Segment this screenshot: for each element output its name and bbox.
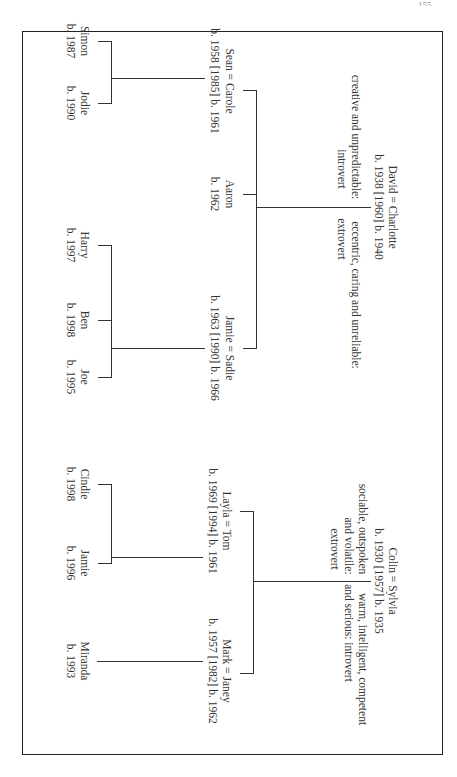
child-line-ben	[98, 320, 112, 321]
genogram-canvas: David = Charlotte b. 1938 [1960] b. 1940…	[22, 31, 443, 755]
sibling-bar-david-charlotte	[256, 90, 257, 349]
child-jamie-sadie: Jamie = Sadie	[223, 316, 236, 381]
parents-dates-david-charlotte: b. 1938 [1960] b. 1940	[372, 154, 385, 259]
descent-line-sean-carole	[111, 78, 205, 79]
grandchild-simon: Simon	[78, 26, 91, 56]
child-line-joe	[98, 377, 112, 378]
trait-colin-line-2: and volatile:	[342, 517, 355, 574]
grandchild-ben-dates: b. 1998	[64, 303, 77, 338]
trait-colin-line-1: sociable, outspoken	[356, 484, 369, 575]
grandchild-harry: Harry	[78, 232, 91, 259]
page-number: 155	[418, 0, 448, 6]
descent-line-mark-janey	[97, 661, 203, 662]
parents-couple-colin-sylvia: Colin = Sylvia	[386, 547, 399, 614]
child-line-simon	[98, 41, 112, 42]
descent-line-layla-tom	[111, 557, 203, 558]
child-line-cindie	[98, 484, 112, 485]
trait-colin-line-3: extrovert	[328, 528, 341, 570]
grandchild-cindie: Cindie	[78, 469, 91, 500]
descent-line-colin-sylvia	[253, 581, 371, 582]
child-line-layla	[240, 511, 254, 512]
child-sean-carole: Sean = Carole	[223, 48, 236, 113]
trait-charlotte-line-1: eccentric, caring and unreliable:	[349, 221, 362, 369]
trait-david-line-2: introvert	[335, 149, 348, 189]
child-line-jamie	[243, 348, 257, 349]
grandchild-cindie-dates: b. 1998	[64, 467, 77, 502]
child-layla-tom: Layla = Tom	[220, 491, 233, 550]
grandchild-jodie-dates: b. 1990	[64, 86, 77, 121]
child-aaron: Aaron	[223, 180, 236, 209]
descent-line-david-charlotte	[256, 207, 371, 208]
grandchild-joe: Joe	[78, 369, 91, 384]
parents-couple-david-charlotte: David = Charlotte	[386, 165, 399, 248]
grandchild-joe-dates: b. 1995	[64, 360, 77, 395]
trait-sylvia-line-2: and serious: introvert	[342, 584, 355, 682]
sibling-bar-layla-tom	[111, 484, 112, 564]
trait-charlotte-line-2: extrovert	[335, 218, 348, 260]
child-line-mark	[240, 673, 254, 674]
child-mark-janey-dates: b. 1957 [1982] b. 1962	[206, 618, 219, 723]
grandchild-ben: Ben	[78, 311, 91, 330]
child-aaron-dates: b. 1962	[208, 177, 221, 212]
grandchild-jamie: Jamie	[78, 550, 91, 577]
child-line-sean	[243, 90, 257, 91]
sibling-bar-jamie-sadie	[111, 245, 112, 378]
grandchild-miranda: Miranda	[78, 642, 91, 681]
sibling-bar-sean-carole	[111, 41, 112, 104]
trait-sylvia-line-1: warm, intelligent, competent	[356, 593, 369, 725]
trait-david-line-1: creative and unpredictable:	[349, 75, 362, 200]
child-line-jodie	[98, 103, 112, 104]
child-line-harry	[98, 245, 112, 246]
child-jamie-sadie-dates: b. 1963 [1990] b. 1966	[208, 295, 221, 400]
grandchild-simon-dates: b. 1987	[64, 24, 77, 59]
child-line-aaron	[243, 194, 257, 195]
grandchild-harry-dates: b. 1997	[64, 228, 77, 263]
grandchild-miranda-dates: b. 1993	[64, 644, 77, 679]
child-line-jamie-grandchild	[98, 563, 112, 564]
child-layla-tom-dates: b. 1969 [1994] b. 1961	[206, 468, 219, 573]
sibling-bar-colin-sylvia	[253, 511, 254, 674]
child-mark-janey: Mark = Janey	[220, 639, 233, 702]
child-sean-carole-dates: b. 1958 [1985] b. 1961	[208, 28, 221, 133]
descent-line-jamie-sadie	[111, 348, 205, 349]
grandchild-jodie: Jodie	[78, 91, 91, 115]
grandchild-jamie-dates: b. 1996	[64, 546, 77, 581]
parents-dates-colin-sylvia: b. 1930 [1957] b. 1935	[372, 528, 385, 633]
